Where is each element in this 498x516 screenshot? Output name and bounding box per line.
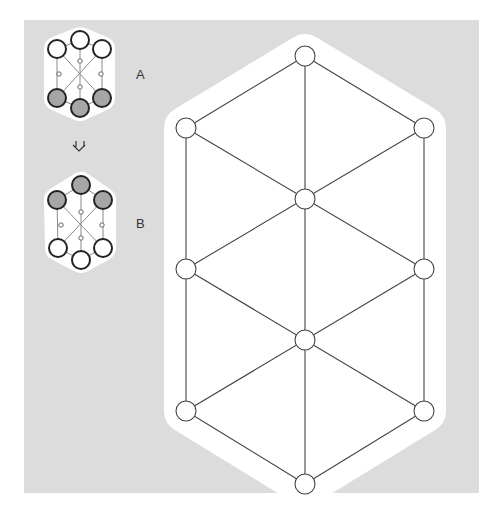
node-filled	[71, 99, 89, 117]
node-filled	[48, 191, 66, 209]
large-node	[295, 330, 315, 350]
large-node	[414, 118, 434, 138]
large-node	[414, 259, 434, 279]
graph-a-label: A	[136, 67, 145, 82]
junction-node	[99, 72, 103, 76]
junction-node	[79, 236, 83, 240]
node-open	[93, 40, 111, 58]
junction-node	[79, 210, 83, 214]
junction-node	[78, 85, 82, 89]
swap-arrow-icon	[73, 141, 85, 151]
junction-node	[78, 59, 82, 63]
graph-a: A	[48, 31, 145, 117]
node-filled	[72, 176, 90, 194]
large-graph	[176, 46, 434, 494]
node-open	[72, 251, 90, 269]
large-node	[414, 401, 434, 421]
node-filled	[94, 191, 112, 209]
junction-node	[100, 223, 104, 227]
node-open	[49, 239, 67, 257]
junction-node	[59, 223, 63, 227]
node-open	[94, 239, 112, 257]
graph-diagram: A B	[0, 0, 498, 516]
node-open	[48, 40, 66, 58]
large-node	[295, 189, 315, 209]
graph-b: B	[48, 176, 145, 269]
node-filled	[48, 89, 66, 107]
graph-b-label: B	[136, 216, 145, 231]
large-node	[176, 259, 196, 279]
junction-node	[57, 72, 61, 76]
large-node	[295, 474, 315, 494]
large-node	[176, 401, 196, 421]
node-filled	[93, 89, 111, 107]
large-node	[176, 118, 196, 138]
node-open	[71, 31, 89, 49]
large-node	[295, 46, 315, 66]
